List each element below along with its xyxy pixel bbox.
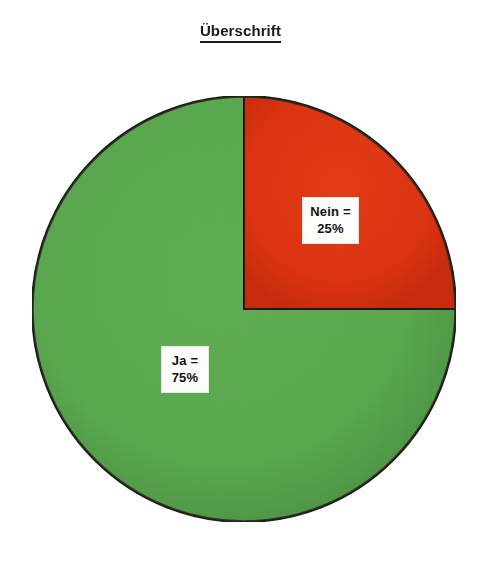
pie-chart	[32, 96, 456, 522]
pie-label-ja-value: 75%	[168, 369, 202, 386]
pie-label-nein: Nein = 25%	[302, 197, 359, 244]
pie-label-ja-name: Ja =	[168, 352, 202, 369]
chart-title: Überschrift	[0, 21, 481, 43]
chart-title-text: Überschrift	[200, 21, 281, 43]
pie-label-ja: Ja = 75%	[161, 346, 209, 393]
chart-canvas: Überschrift	[0, 0, 481, 567]
pie-label-nein-value: 25%	[309, 220, 352, 237]
pie-label-nein-name: Nein =	[309, 203, 352, 220]
pie-chart-graphic	[32, 96, 456, 522]
